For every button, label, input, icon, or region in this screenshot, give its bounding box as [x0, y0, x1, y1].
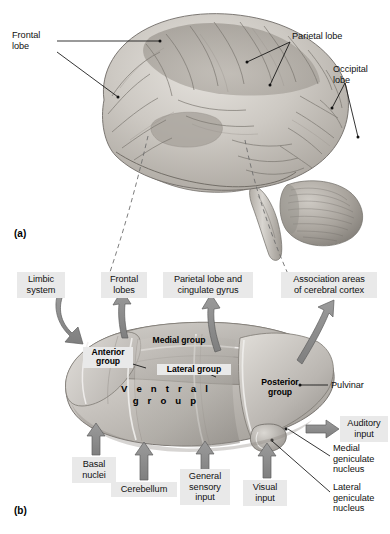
label-medial-group: Medial group — [140, 336, 218, 346]
panel-a-tag: (a) — [14, 228, 26, 239]
label-frontal-lobes: Frontal lobes — [101, 272, 147, 298]
figure-thalamus-and-brain: (a) Frontal lobe Parietal lobe Occipital… — [0, 0, 390, 534]
label-visual-input: Visual input — [243, 480, 287, 506]
label-basal-nuclei: Basal nuclei — [72, 457, 116, 483]
arrow-to-limbic-system — [56, 293, 83, 344]
label-cerebellum: Cerebellum — [111, 482, 177, 497]
label-lateral-geniculate-nucleus: Lateral geniculate nucleus — [333, 482, 387, 514]
label-general-sensory-input: General sensory input — [180, 469, 230, 505]
label-pulvinar: Pulvinar — [331, 380, 385, 391]
arrow-from-auditory-input — [306, 420, 339, 438]
label-posterior-group: Posterior group — [250, 378, 310, 398]
cerebellum-illustration — [280, 181, 363, 246]
brain-stem-illustration — [250, 186, 282, 261]
panel-b-tag: (b) — [14, 505, 27, 516]
label-association-areas-of-cerebral-cortex: Association areas of cerebral cortex — [281, 272, 377, 298]
label-medial-geniculate-nucleus: Medial geniculate nucleus — [333, 443, 387, 475]
figure-artwork — [0, 0, 390, 534]
label-auditory-input: Auditory input — [340, 416, 388, 442]
label-parietal-lobe-and-cingulate-gyrus: Parietal lobe and cingulate gyrus — [163, 272, 253, 298]
label-anterior-group: Anterior group — [83, 347, 133, 368]
label-limbic-system: Limbic system — [17, 272, 65, 298]
label-ventral-group: V e n t r a l g r o u p — [107, 383, 225, 407]
label-parietal-lobe: Parietal lobe — [292, 31, 366, 42]
label-lateral-group: Lateral group — [157, 364, 231, 375]
label-frontal-lobe: Frontal lobe — [12, 30, 58, 51]
label-occipital-lobe: Occipital lobe — [333, 64, 387, 85]
brain-lateral-illustration — [57, 14, 363, 274]
